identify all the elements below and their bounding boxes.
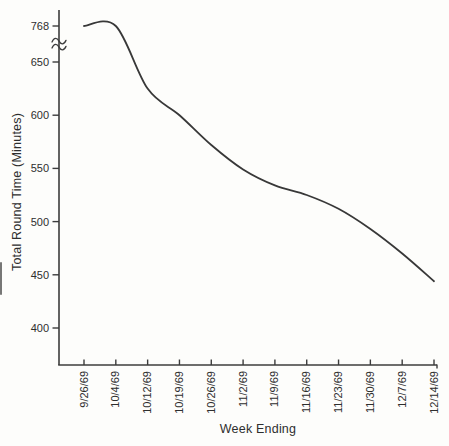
scan-edge-artifact bbox=[0, 262, 2, 295]
x-tick-label: 10/12/69 bbox=[141, 371, 153, 414]
x-tick-label: 11/2/69 bbox=[237, 371, 249, 407]
x-tick-label: 12/7/69 bbox=[396, 371, 408, 408]
y-tick-label: 450 bbox=[31, 269, 49, 281]
y-tick-label: 650 bbox=[31, 56, 49, 68]
x-tick-label: 11/9/69 bbox=[268, 371, 280, 407]
x-tick-label: 11/16/69 bbox=[300, 371, 312, 413]
x-tick-label: 10/19/69 bbox=[173, 371, 185, 414]
x-tick-label: 10/4/69 bbox=[109, 371, 121, 408]
data-curve bbox=[84, 21, 434, 281]
x-tick-label: 11/30/69 bbox=[364, 371, 376, 413]
y-axis-title: Total Round Time (Minutes) bbox=[10, 113, 24, 271]
chart-canvas: 7686506005505004504009/26/6910/4/6910/12… bbox=[0, 0, 449, 446]
x-tick-label: 9/26/69 bbox=[78, 371, 90, 408]
x-axis-title: Week Ending bbox=[220, 422, 296, 436]
x-tick-label: 11/23/69 bbox=[332, 371, 344, 413]
x-tick-label: 10/26/69 bbox=[205, 371, 217, 414]
y-tick-label: 550 bbox=[31, 162, 49, 174]
y-tick-label: 600 bbox=[31, 109, 49, 121]
x-tick-label: 12/14/69 bbox=[428, 371, 440, 414]
y-tick-label: 500 bbox=[31, 216, 49, 228]
y-tick-label: 768 bbox=[31, 20, 49, 32]
y-tick-label: 400 bbox=[31, 322, 49, 334]
line-chart: 7686506005505004504009/26/6910/4/6910/12… bbox=[0, 0, 449, 446]
